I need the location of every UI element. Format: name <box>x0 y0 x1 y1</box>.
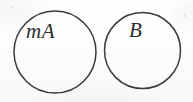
circles-svg <box>0 0 193 102</box>
set-label-left: mA <box>26 21 55 42</box>
set-circle-right <box>105 13 181 89</box>
set-label-right: B <box>129 20 142 41</box>
set-diagram-canvas: mA B <box>0 0 193 102</box>
